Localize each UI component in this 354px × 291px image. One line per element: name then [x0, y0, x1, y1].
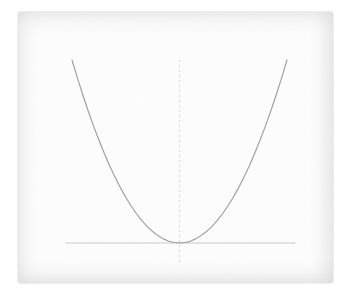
parabola-plot — [0, 0, 354, 291]
film-grain-overlay — [17, 11, 332, 282]
photo-canvas — [0, 0, 354, 291]
